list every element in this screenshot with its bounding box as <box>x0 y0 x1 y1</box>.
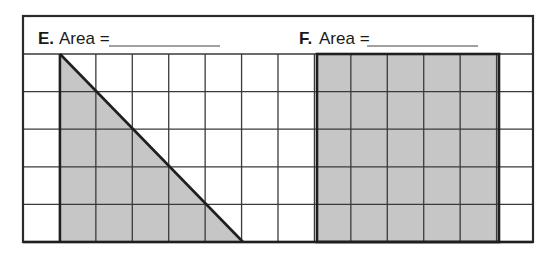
area-worksheet: E. Area = F. Area = <box>0 0 554 258</box>
rectangle-f-shaded <box>317 54 499 242</box>
problem-f-header: F. Area = <box>299 29 478 48</box>
problem-e-letter: E. <box>38 29 54 48</box>
problem-f-letter: F. <box>299 29 312 48</box>
problem-e-header: E. Area = <box>38 29 220 48</box>
problem-f-prompt: Area = <box>319 29 370 48</box>
problem-e-prompt: Area = <box>59 29 110 48</box>
